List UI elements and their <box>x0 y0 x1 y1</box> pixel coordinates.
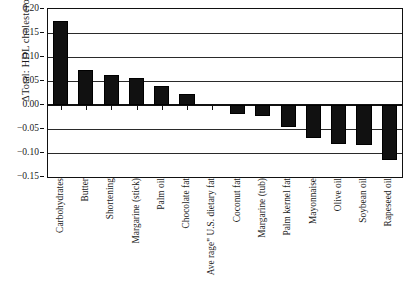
x-axis-tick-label-text: Ave rage" U.S. dietary fat <box>206 178 216 275</box>
x-axis-tick-label: Butter <box>78 178 92 300</box>
x-axis-tick-label: Palm oil <box>154 178 168 300</box>
x-axis-tick-label-text: Mayonnaise <box>308 178 318 224</box>
x-axis-tick-label-text: Chocolate fat <box>181 178 191 228</box>
bar <box>154 86 169 105</box>
bar-chart-figure: ΔTotal: HDL cholesterol 0.200.150.100.05… <box>0 0 411 303</box>
x-axis-tick-mark <box>187 105 188 110</box>
x-axis-tick-label: Carbohydrates <box>53 178 67 300</box>
x-axis-tick-label: Margarine (stick) <box>129 178 143 300</box>
plot-area <box>47 8 403 178</box>
x-axis-tick-label-text: Soybean oil <box>358 178 368 223</box>
x-axis-tick-labels: CarbohydratesButterShorteningMargarine (… <box>47 178 403 303</box>
x-axis-tick-label: Shortening <box>103 178 117 300</box>
bar <box>230 105 245 114</box>
x-axis-tick-mark <box>162 105 163 110</box>
bar <box>78 70 93 105</box>
zero-baseline <box>48 104 402 105</box>
x-axis-tick-label-text: Margarine (tub) <box>257 178 267 238</box>
y-axis-tick-label: 0.05 <box>22 75 39 85</box>
x-axis-tick-label-text: Palm kernel fat <box>282 178 292 236</box>
x-axis-tick-label-text: Shortening <box>105 178 115 219</box>
x-axis-tick-mark <box>86 105 87 110</box>
x-axis-tick-mark <box>137 105 138 110</box>
bar <box>53 21 68 105</box>
y-axis-tick-label: 0.15 <box>22 27 39 37</box>
y-axis-tick-label: −0.05 <box>17 123 39 133</box>
gridline <box>48 81 402 82</box>
y-axis-tick-mark <box>40 80 44 81</box>
x-axis-tick-label-text: Olive oil <box>333 178 343 211</box>
x-axis-tick-label-text: Margarine (stick) <box>131 178 141 243</box>
gridline <box>48 153 402 154</box>
x-axis-tick-label: Chocolate fat <box>179 178 193 300</box>
x-axis-tick-mark <box>61 105 62 110</box>
y-axis-tick-label: 0.10 <box>22 51 39 61</box>
x-axis-tick-label: Rapeseed oil <box>381 178 395 300</box>
y-axis-tick-label: 0.00 <box>22 99 39 109</box>
gridline <box>48 57 402 58</box>
x-axis-tick-label: Ave rage" U.S. dietary fat <box>204 178 218 300</box>
bar <box>356 105 371 145</box>
bar <box>179 94 194 105</box>
y-axis-tick-label: −0.15 <box>17 171 39 181</box>
y-axis-tick-labels: 0.200.150.100.050.00−0.05−0.10−0.15 <box>0 8 44 161</box>
bar <box>104 75 119 105</box>
y-axis-tick-mark <box>40 8 44 9</box>
bar <box>382 105 397 160</box>
y-axis-tick-label: −0.10 <box>17 147 39 157</box>
gridline <box>48 129 402 130</box>
x-axis-tick-label: Olive oil <box>331 178 345 300</box>
y-axis-tick-mark <box>40 152 44 153</box>
x-axis-tick-label-text: Coconut fat <box>232 178 242 222</box>
x-axis-tick-label-text: Carbohydrates <box>55 178 65 233</box>
x-axis-tick-mark <box>111 105 112 110</box>
x-axis-tick-label-text: Butter <box>80 178 90 202</box>
x-axis-tick-label: Coconut fat <box>230 178 244 300</box>
bar <box>255 105 270 116</box>
y-axis-tick-mark <box>40 128 44 129</box>
y-axis-tick-mark <box>40 176 44 177</box>
bar <box>306 105 321 138</box>
x-axis-tick-mark <box>212 105 213 110</box>
x-axis-tick-label: Mayonnaise <box>306 178 320 300</box>
x-axis-tick-label: Margarine (tub) <box>255 178 269 300</box>
x-axis-tick-label-text: Palm oil <box>156 178 166 210</box>
bar <box>331 105 346 144</box>
x-axis-tick-label: Palm kernel fat <box>280 178 294 300</box>
x-axis-tick-label: Soybean oil <box>356 178 370 300</box>
bar <box>129 78 144 105</box>
y-axis-tick-mark <box>40 32 44 33</box>
y-axis-tick-mark <box>40 56 44 57</box>
x-axis-tick-label-text: Rapeseed oil <box>383 178 393 226</box>
bar <box>281 105 296 127</box>
y-axis-tick-mark <box>40 104 44 105</box>
y-axis-tick-label: 0.20 <box>22 3 39 13</box>
gridline <box>48 33 402 34</box>
